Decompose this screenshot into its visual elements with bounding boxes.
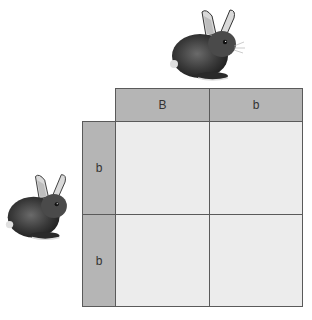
top-parent-rabbit-icon [168, 6, 248, 84]
punnett-cell-r1c2 [209, 121, 303, 215]
row-header-2: b [82, 214, 116, 307]
punnett-cell-r2c1 [115, 214, 210, 307]
column-allele-label: B [158, 98, 166, 112]
column-header-2: b [209, 88, 303, 122]
column-header-1: B [115, 88, 210, 122]
row-allele-label: b [96, 254, 103, 268]
punnett-cell-r1c1 [115, 121, 210, 215]
left-parent-rabbit-icon [4, 170, 78, 244]
row-allele-label: b [96, 161, 103, 175]
column-allele-label: b [253, 98, 260, 112]
row-header-1: b [82, 121, 116, 215]
punnett-cell-r2c2 [209, 214, 303, 307]
